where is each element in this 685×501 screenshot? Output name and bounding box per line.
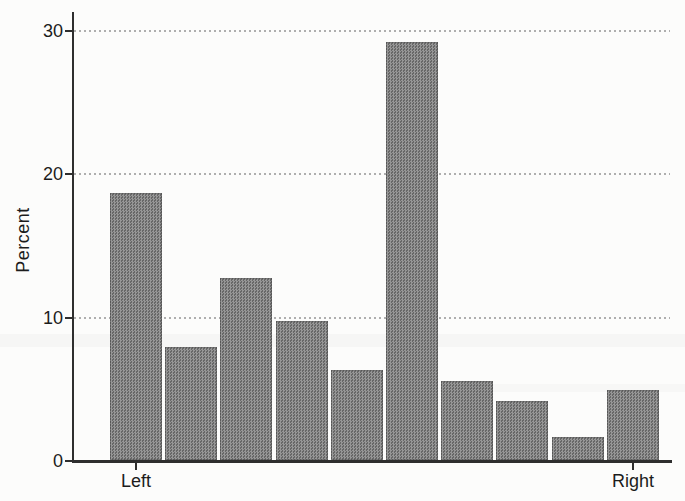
y-tick-label-30: 30 (15, 21, 63, 41)
bar-4 (276, 321, 328, 460)
bar-7 (441, 381, 493, 460)
gridline-10 (74, 317, 670, 319)
y-axis-title: Percent (13, 207, 34, 273)
bar-10 (607, 390, 659, 460)
x-tick-label-left: Left (91, 471, 181, 491)
x-tick-left (135, 463, 137, 470)
x-axis-line (72, 460, 672, 463)
y-tick-label-10: 10 (15, 308, 63, 328)
bar-chart-figure: Percent 0102030 LeftRight (0, 0, 685, 501)
bar-9 (552, 437, 604, 460)
bar-6 (386, 42, 438, 460)
bar-5 (331, 370, 383, 460)
gridline-20 (74, 173, 670, 175)
x-tick-right (632, 463, 634, 470)
bar-1 (110, 193, 162, 460)
y-tick-label-0: 0 (15, 451, 63, 471)
gridline-30 (74, 30, 670, 32)
x-tick-label-right: Right (588, 471, 678, 491)
bar-3 (220, 278, 272, 460)
y-tick-10 (65, 317, 73, 319)
y-tick-label-20: 20 (15, 164, 63, 184)
y-tick-0 (65, 460, 73, 462)
bar-2 (165, 347, 217, 460)
y-tick-30 (65, 30, 73, 32)
y-axis-line (72, 12, 74, 463)
bar-8 (496, 401, 548, 460)
y-tick-20 (65, 173, 73, 175)
scan-streak (0, 334, 685, 347)
